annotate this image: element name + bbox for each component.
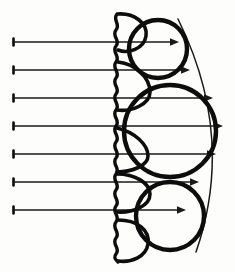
circle-group [124, 20, 216, 250]
ray-1 [13, 38, 179, 46]
ray-2 [13, 66, 190, 74]
circle-middle [124, 85, 216, 177]
figure-root [0, 0, 235, 272]
circle-bottom [136, 182, 204, 250]
ray-7 [13, 206, 186, 214]
diagram-canvas [0, 0, 235, 272]
right-envelope-curve [178, 19, 212, 252]
lobe-middle [117, 128, 148, 172]
lobe-group [117, 14, 150, 261]
ray-3 [13, 94, 213, 102]
ray-5 [13, 150, 216, 158]
